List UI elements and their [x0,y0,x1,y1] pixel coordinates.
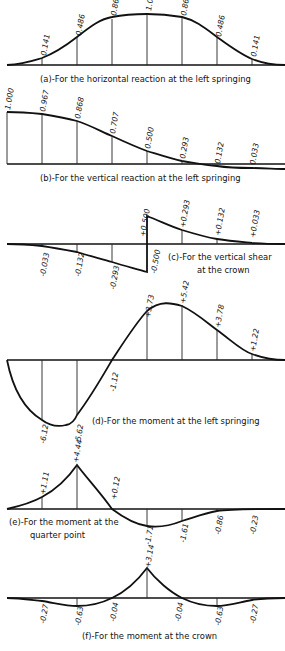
influence-curve-f [7,568,285,606]
label-f-6: -0.63 [213,605,225,626]
label-a-4: 1.00 [144,0,156,11]
label-a-2: 0.486 [74,13,87,36]
label-f-1: -0.27 [38,603,50,624]
label-b-5: 0.293 [178,136,191,159]
label-c-pos-5: +0.293 [178,199,192,228]
label-e-5: -1.61 [178,522,190,543]
label-f-4: +3.14 [143,544,156,569]
label-a-3: 0.860 [109,0,122,16]
label-e-4: -1.71 [143,524,155,545]
label-d-1: -6.12 [38,423,50,444]
caption-c-line1: (c)-For the vertical shear [168,252,272,262]
label-b-2: 0.868 [73,96,86,119]
label-b-6: 0.132 [213,141,226,164]
caption-b: (b)-For the vertical reaction at the lef… [40,173,241,183]
label-c-neg-2: -0.132 [73,252,86,278]
caption-d: (d)-For the moment at the left springing [92,416,260,426]
label-c-pos-7: +0.033 [248,209,262,238]
influence-curve-d [7,303,285,426]
panel-b-vertical-reaction: 1.000 0.967 0.868 0.707 0.500 0.293 0.13… [3,87,285,183]
caption-a: (a)-For the horizontal reaction at the l… [40,74,251,84]
label-f-5: -0.04 [173,601,185,622]
caption-f: (f)-For the moment at the crown [82,631,217,641]
panel-d-moment-left-springing: -6.12 -5.62 -1.12 +3.73 +5.42 +3.78 +1.2… [7,280,285,445]
influence-lines-figure: 0.141 0.486 0.860 1.00 0.860 0.486 0.141… [0,0,285,651]
label-b-0: 1.000 [3,87,16,110]
label-a-6: 0.486 [214,14,227,37]
label-a-7: 0.141 [249,34,262,57]
label-c-neg-4: -0.500 [149,249,162,275]
label-c-pos-6: +0.132 [213,207,227,236]
label-c-pos-4: +0.500 [138,208,152,237]
label-e-7: -0.23 [248,514,260,535]
label-b-3: 0.707 [108,111,121,134]
label-f-7: -0.27 [248,603,260,624]
label-b-4: 0.500 [143,126,156,149]
label-f-2: -0.63 [73,605,85,626]
label-c-neg-3: -0.293 [108,265,121,291]
label-d-4: +3.73 [143,294,156,319]
label-d-5: +5.42 [178,280,191,305]
caption-e-line1: (e)-For the moment at the [9,517,119,527]
label-d-7: +1.22 [248,328,261,353]
label-a-1: 0.141 [39,33,52,56]
label-e-3: +0.12 [109,476,122,501]
label-f-3: -0.04 [108,601,120,622]
label-a-5: 0.860 [179,0,192,16]
panel-e-moment-quarter-point: +1.11 +4.44 +0.12 -1.71 -1.61 -0.86 -0.2… [7,439,285,546]
caption-c-line2: at the crown [197,265,250,275]
caption-e-line2: quarter point [30,530,86,540]
label-d-6: +3.78 [213,304,226,329]
label-e-1: +1.11 [38,471,51,495]
label-d-3: -1.12 [108,371,120,392]
panel-c-vertical-shear: -0.033 -0.132 -0.293 -0.500 +0.500 +0.29… [7,199,285,290]
label-b-1: 0.967 [38,89,51,112]
panel-a-horizontal-reaction: 0.141 0.486 0.860 1.00 0.860 0.486 0.141… [7,0,285,84]
label-e-6: -0.86 [213,514,225,535]
label-b-7: 0.033 [248,142,261,165]
label-c-neg-1: -0.033 [38,252,51,278]
panel-f-moment-crown: -0.27 -0.63 -0.04 +3.14 -0.04 -0.63 -0.2… [7,544,285,641]
